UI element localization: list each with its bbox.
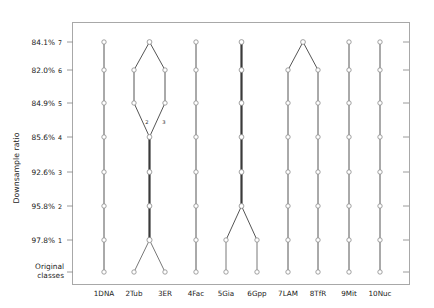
svg-text:2Tub: 2Tub xyxy=(126,289,143,298)
tree-edges xyxy=(104,42,380,272)
x-axis-labels: 1DNA2Tub3ER4Fac5Gia6Gpp7LAM8TfR9Mit10Nuc xyxy=(94,289,392,298)
svg-text:85.6%: 85.6% xyxy=(32,133,55,142)
svg-text:4Fac: 4Fac xyxy=(188,289,204,298)
merge-tree-plot: 84.1%782.0%684.9%585.6%492.6%395.8%297.8… xyxy=(0,0,434,308)
svg-text:6: 6 xyxy=(58,67,62,75)
svg-text:7: 7 xyxy=(58,39,62,47)
svg-text:3: 3 xyxy=(162,119,165,125)
svg-text:10Nuc: 10Nuc xyxy=(368,289,391,298)
svg-text:classes: classes xyxy=(37,271,64,280)
svg-text:Original: Original xyxy=(35,262,64,271)
svg-text:84.1%: 84.1% xyxy=(32,38,55,47)
svg-text:5: 5 xyxy=(58,100,62,108)
svg-text:4: 4 xyxy=(58,134,62,142)
svg-text:1: 1 xyxy=(58,237,62,245)
svg-text:92.6%: 92.6% xyxy=(32,168,55,177)
chart-root: 84.1%782.0%684.9%585.6%492.6%395.8%297.8… xyxy=(0,0,434,308)
svg-text:2: 2 xyxy=(145,119,148,125)
svg-text:95.8%: 95.8% xyxy=(32,202,55,211)
svg-text:82.0%: 82.0% xyxy=(32,66,55,75)
svg-text:3: 3 xyxy=(58,169,62,177)
svg-text:8TfR: 8TfR xyxy=(310,289,327,298)
svg-text:Downsample ratio: Downsample ratio xyxy=(12,132,21,203)
svg-text:6Gpp: 6Gpp xyxy=(247,289,267,298)
y-axis-title: Downsample ratio xyxy=(12,132,21,203)
svg-text:2: 2 xyxy=(58,203,62,211)
svg-text:5Gia: 5Gia xyxy=(218,289,235,298)
svg-text:1DNA: 1DNA xyxy=(94,289,114,298)
y-axis-ticks-right xyxy=(403,42,409,272)
svg-text:97.8%: 97.8% xyxy=(32,236,55,245)
svg-text:84.9%: 84.9% xyxy=(32,99,55,108)
svg-text:3ER: 3ER xyxy=(158,289,172,298)
y-axis-labels: 84.1%782.0%684.9%585.6%492.6%395.8%297.8… xyxy=(32,38,65,280)
svg-text:9Mit: 9Mit xyxy=(341,289,357,298)
svg-text:7LAM: 7LAM xyxy=(278,289,298,298)
